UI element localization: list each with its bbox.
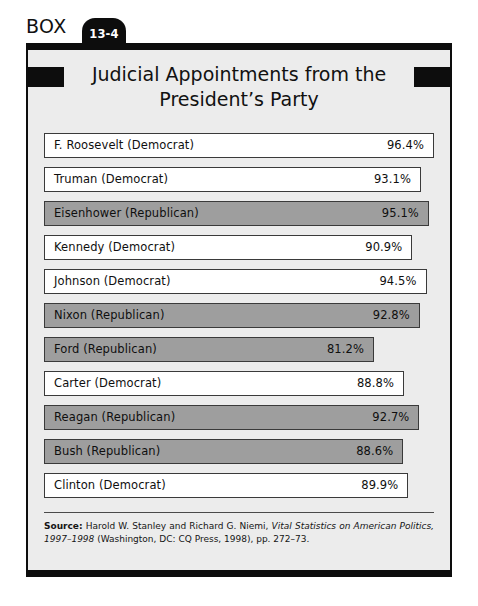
box-number: 13-4 <box>89 24 119 41</box>
bar-republican: Ford (Republican)81.2% <box>44 337 374 362</box>
bar-row: F. Roosevelt (Democrat)96.4% <box>44 128 434 162</box>
source-publication-title: Vital Statistics on American Politics, 1… <box>44 521 434 544</box>
bar-row: Truman (Democrat)93.1% <box>44 162 434 196</box>
bar-row: Eisenhower (Republican)95.1% <box>44 196 434 230</box>
bar-label: Nixon (Republican) <box>54 308 165 322</box>
bar-row: Reagan (Republican)92.7% <box>44 400 434 434</box>
bar-label: Bush (Republican) <box>54 444 160 458</box>
bar-label: Eisenhower (Republican) <box>54 206 199 220</box>
bar-democrat: Johnson (Democrat)94.5% <box>44 269 427 294</box>
bar-value: 88.6% <box>356 444 393 458</box>
box-title-line-2: President’s Party <box>76 87 402 112</box>
source-prefix: Source: <box>44 521 83 531</box>
box-frame: Judicial Appointments from the President… <box>26 43 452 577</box>
bar-value: 95.1% <box>382 206 419 220</box>
bar-chart: F. Roosevelt (Democrat)96.4%Truman (Demo… <box>28 128 450 502</box>
bar-value: 93.1% <box>374 172 411 186</box>
bar-value: 96.4% <box>387 138 424 152</box>
bar-republican: Nixon (Republican)92.8% <box>44 303 420 328</box>
bar-value: 90.9% <box>365 240 402 254</box>
box-title: Judicial Appointments from the President… <box>28 62 450 112</box>
bar-democrat: Truman (Democrat)93.1% <box>44 167 421 192</box>
bar-democrat: Kennedy (Democrat)90.9% <box>44 235 412 260</box>
bar-row: Ford (Republican)81.2% <box>44 332 434 366</box>
box-title-line-1: Judicial Appointments from the <box>76 62 402 87</box>
bar-value: 92.7% <box>372 410 409 424</box>
box-label: BOX <box>26 15 67 37</box>
bar-value: 94.5% <box>379 274 416 288</box>
bar-value: 89.9% <box>361 478 398 492</box>
bar-row: Nixon (Republican)92.8% <box>44 298 434 332</box>
bar-row: Bush (Republican)88.6% <box>44 434 434 468</box>
bar-label: F. Roosevelt (Democrat) <box>54 138 194 152</box>
bar-democrat: Carter (Democrat)88.8% <box>44 371 404 396</box>
bar-value: 81.2% <box>327 342 364 356</box>
bar-democrat: F. Roosevelt (Democrat)96.4% <box>44 133 434 158</box>
bar-republican: Eisenhower (Republican)95.1% <box>44 201 429 226</box>
bar-label: Ford (Republican) <box>54 342 157 356</box>
bar-label: Carter (Democrat) <box>54 376 161 390</box>
source-note: Source: Harold W. Stanley and Richard G.… <box>44 512 434 546</box>
decorative-block-right <box>414 67 450 87</box>
bar-republican: Bush (Republican)88.6% <box>44 439 403 464</box>
bar-row: Johnson (Democrat)94.5% <box>44 264 434 298</box>
decorative-block-left <box>28 67 64 87</box>
title-band: Judicial Appointments from the President… <box>28 62 450 120</box>
bar-row: Clinton (Democrat)89.9% <box>44 468 434 502</box>
bar-value: 88.8% <box>357 376 394 390</box>
source-text: Source: Harold W. Stanley and Richard G.… <box>44 520 434 546</box>
bar-label: Clinton (Democrat) <box>54 478 166 492</box>
bar-label: Kennedy (Democrat) <box>54 240 175 254</box>
bar-democrat: Clinton (Democrat)89.9% <box>44 473 408 498</box>
bar-row: Kennedy (Democrat)90.9% <box>44 230 434 264</box>
bar-label: Johnson (Democrat) <box>54 274 171 288</box>
bar-label: Reagan (Republican) <box>54 410 175 424</box>
bar-value: 92.8% <box>373 308 410 322</box>
bar-label: Truman (Democrat) <box>54 172 168 186</box>
bar-republican: Reagan (Republican)92.7% <box>44 405 419 430</box>
bar-row: Carter (Democrat)88.8% <box>44 366 434 400</box>
